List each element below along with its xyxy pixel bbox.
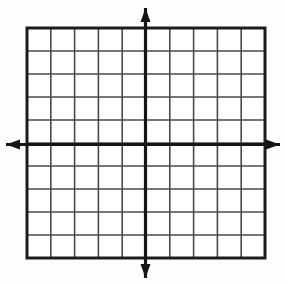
grid-canvas (0, 0, 286, 284)
x-axis-negative-arrowhead (6, 140, 20, 150)
y-axis-positive-arrowhead (141, 8, 151, 22)
y-axis-negative-arrowhead (141, 264, 151, 278)
x-axis-positive-arrowhead (266, 140, 280, 150)
coordinate-grid-figure (0, 0, 286, 284)
